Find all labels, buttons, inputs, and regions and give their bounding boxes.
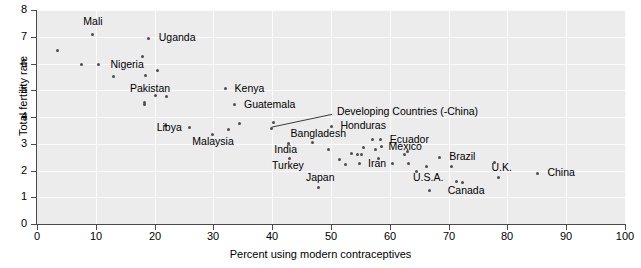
data-point (391, 162, 394, 165)
x-axis-tick-label: 50 (311, 231, 351, 242)
y-axis-tick (31, 197, 36, 198)
gridline-vertical (566, 10, 567, 224)
data-point (358, 162, 361, 165)
data-point (154, 94, 157, 97)
y-axis-tick (31, 144, 36, 145)
gridline-vertical (507, 10, 508, 224)
data-point-label: Mali (83, 16, 102, 27)
data-point (425, 165, 428, 168)
y-axis-tick (31, 90, 36, 91)
data-point (227, 128, 230, 131)
data-point (56, 49, 59, 52)
data-point (403, 153, 406, 156)
data-point-label: Pakistan (130, 83, 170, 94)
gridline-vertical (331, 10, 332, 224)
data-point-label: Guatemala (244, 99, 295, 110)
y-axis-tick-label: 0 (0, 218, 27, 229)
data-point (371, 138, 374, 141)
x-axis-tick-label: 40 (252, 231, 292, 242)
data-point (144, 74, 147, 77)
data-point (406, 150, 409, 153)
y-axis-tick-label: 6 (0, 58, 27, 69)
data-point (188, 126, 191, 129)
data-point (497, 176, 500, 179)
data-point (311, 141, 314, 144)
data-point-label: Kenya (235, 83, 265, 94)
x-axis-tick-label: 60 (370, 231, 410, 242)
data-point (455, 180, 458, 183)
y-axis-line (36, 10, 37, 225)
data-point (238, 122, 241, 125)
data-point (450, 165, 453, 168)
y-axis-tick (31, 37, 36, 38)
gridline-vertical (96, 10, 97, 224)
y-axis-tick (31, 171, 36, 172)
y-axis-tick-label: 5 (0, 84, 27, 95)
data-point-label: China (547, 167, 574, 178)
x-axis-tick-label: 10 (76, 231, 116, 242)
data-point-label: Honduras (340, 120, 386, 131)
data-point-label: Canada (448, 185, 485, 196)
y-axis-tick (31, 117, 36, 118)
data-point-label: U.S.A. (413, 172, 443, 183)
data-point-label: Bangladesh (291, 128, 346, 139)
data-point (80, 63, 83, 66)
data-point (379, 138, 382, 141)
data-point (330, 125, 333, 128)
data-point (327, 148, 330, 151)
data-point-label: Brazil (449, 151, 475, 162)
x-axis-tick-label: 100 (605, 231, 641, 242)
data-point (374, 148, 377, 151)
y-axis-tick-label: 1 (0, 191, 27, 202)
data-point (112, 75, 115, 78)
y-axis-tick-label: 4 (0, 111, 27, 122)
data-point (143, 103, 146, 106)
data-point (377, 157, 380, 160)
data-point (165, 95, 168, 98)
x-axis-tick-label: 20 (135, 231, 175, 242)
data-point (360, 153, 363, 156)
gridline-vertical (272, 10, 273, 224)
data-point (362, 146, 365, 149)
y-axis-tick-label: 3 (0, 138, 27, 149)
data-point-label: Libya (157, 122, 182, 133)
x-axis-tick-label: 90 (546, 231, 586, 242)
y-axis-tick-label: 2 (0, 165, 27, 176)
data-point (407, 162, 410, 165)
data-point (233, 103, 236, 106)
data-point-label: Malaysia (192, 136, 233, 147)
gridline-vertical (213, 10, 214, 224)
x-axis-tick-label: 30 (193, 231, 233, 242)
data-point-label: India (274, 144, 297, 155)
y-axis-tick-label: 7 (0, 31, 27, 42)
plot-area: MaliNigeriaUgandaPakistanLibyaMalaysiaKe… (37, 10, 625, 224)
data-point (97, 63, 100, 66)
y-axis-tick-label: 8 (0, 4, 27, 15)
scatter-chart-figure: MaliNigeriaUgandaPakistanLibyaMalaysiaKe… (0, 0, 641, 268)
data-point-label: U.K. (492, 162, 512, 173)
x-axis-tick-label: 0 (17, 231, 57, 242)
data-point (317, 186, 320, 189)
y-axis-tick (31, 64, 36, 65)
data-point (91, 33, 94, 36)
data-point (272, 121, 275, 124)
data-point-label: Turkey (272, 160, 304, 171)
data-point (270, 127, 273, 130)
x-axis-tick-label: 70 (429, 231, 469, 242)
data-point (356, 153, 359, 156)
gridline-vertical (625, 10, 626, 224)
data-point (344, 163, 347, 166)
x-axis-tick-label: 80 (487, 231, 527, 242)
data-point-label: Japan (306, 172, 335, 183)
data-point-label: Uganda (159, 32, 196, 43)
data-point (338, 158, 341, 161)
data-point (147, 37, 150, 40)
gridline-vertical (155, 10, 156, 224)
data-point (380, 145, 383, 148)
data-point-label: Nigeria (111, 59, 144, 70)
y-axis-tick (31, 224, 36, 225)
data-point (428, 189, 431, 192)
annotation-label: Developing Countries (-China) (337, 106, 478, 117)
data-point (438, 156, 441, 159)
data-point (156, 69, 159, 72)
